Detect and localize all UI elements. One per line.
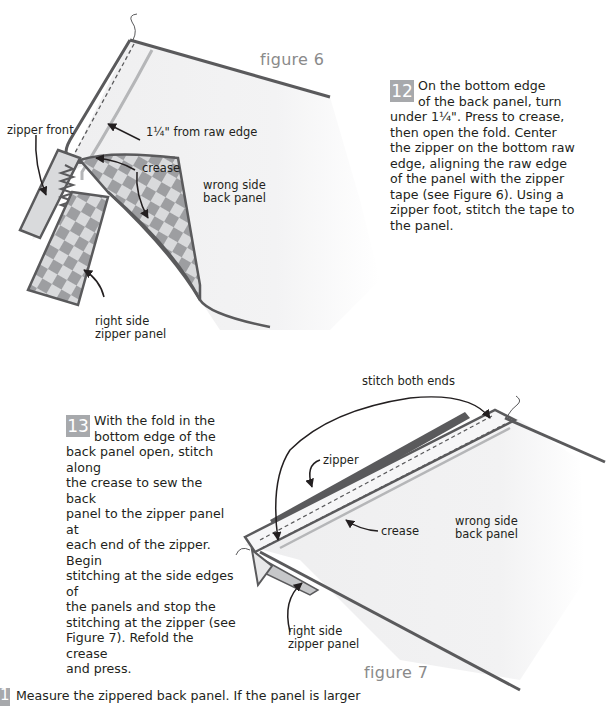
- step-12-line: under 1¼". Press to crease,: [390, 109, 590, 125]
- step-12-number: 12: [390, 80, 414, 102]
- label-wrong-side-line2: back panel: [203, 192, 266, 205]
- figure-6-title: figure 6: [260, 50, 324, 69]
- label-right-side: right side zipper panel: [95, 315, 166, 341]
- label-zipper: zipper: [323, 454, 359, 467]
- label-crease-7: crease: [381, 525, 419, 538]
- step-14-text: Measure the zippered back panel. If the …: [16, 688, 361, 703]
- step-14-number: 14: [0, 688, 10, 706]
- step-14: 14Measure the zippered back panel. If th…: [0, 688, 361, 706]
- step-12-line: zipper foot, stitch the tape to: [390, 202, 590, 218]
- label-right-side-7-line2: zipper panel: [288, 638, 359, 651]
- step-13-line: stitching at the zipper (see: [66, 615, 236, 631]
- step-12-line: the zipper on the bottom raw: [390, 140, 590, 156]
- step-12-line: of the back panel, turn: [390, 94, 590, 110]
- step-13-line: back panel open, stitch along: [66, 444, 236, 475]
- step-12-line: tape (see Figure 6). Using a: [390, 187, 590, 203]
- step-12: 12 On the bottom edge of the back panel,…: [390, 78, 590, 233]
- label-wrong-side: wrong side back panel: [203, 179, 266, 205]
- step-13-line: With the fold in the: [66, 413, 236, 429]
- label-wrong-side-7-line2: back panel: [455, 528, 518, 541]
- step-13-line: each end of the zipper. Begin: [66, 537, 236, 568]
- label-wrong-side-7: wrong side back panel: [455, 515, 518, 541]
- step-12-line: of the panel with the zipper: [390, 171, 590, 187]
- label-stitch-both-ends: stitch both ends: [362, 375, 455, 388]
- label-measure: 1¼" from raw edge: [146, 126, 257, 139]
- figure-7-title: figure 7: [364, 663, 428, 682]
- step-12-line: On the bottom edge: [390, 78, 590, 94]
- label-right-side-7: right side zipper panel: [288, 625, 359, 651]
- step-13-line: panel to the zipper panel at: [66, 506, 236, 537]
- figure-6-drawing: [20, 14, 380, 330]
- step-13: 13 With the fold in the bottom edge of t…: [66, 413, 236, 677]
- step-13-line: and press.: [66, 661, 236, 677]
- step-13-line: the crease to sew the back: [66, 475, 236, 506]
- step-12-line: then open the fold. Center: [390, 125, 590, 141]
- step-12-line: the panel.: [390, 218, 590, 234]
- step-13-number: 13: [66, 415, 90, 437]
- label-crease: crease: [142, 162, 180, 175]
- step-13-line: the panels and stop the: [66, 599, 236, 615]
- label-zipper-front: zipper front: [7, 124, 74, 137]
- step-12-line: edge, aligning the raw edge: [390, 156, 590, 172]
- step-13-line: stitching at the side edges of: [66, 568, 236, 599]
- label-right-side-line2: zipper panel: [95, 328, 166, 341]
- step-13-line: bottom edge of the: [66, 429, 236, 445]
- step-13-line: Figure 7). Refold the crease: [66, 630, 236, 661]
